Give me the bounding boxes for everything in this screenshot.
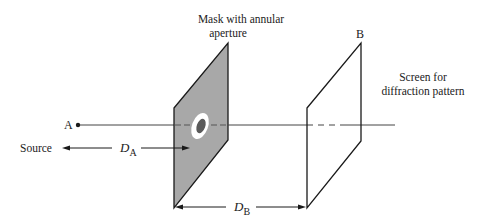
db-label: DB <box>233 199 250 217</box>
point-a-label: A <box>64 118 73 132</box>
db-label-main: D <box>233 199 244 214</box>
point-a-dot <box>76 123 80 127</box>
diffraction-diagram: A B Mask with annular aperture Screen fo… <box>0 0 485 222</box>
da-label-sub: A <box>129 147 137 158</box>
arrowhead-right-screen <box>298 205 306 210</box>
arrowhead-left-source <box>62 146 70 151</box>
source-label: Source <box>20 142 52 154</box>
da-label-main: D <box>119 140 130 155</box>
mask-label-line1: Mask with annular <box>198 13 284 25</box>
point-b-label: B <box>356 27 364 41</box>
da-label: DA <box>119 140 137 158</box>
screen-label-line1: Screen for <box>399 71 447 83</box>
db-label-sub: B <box>243 206 250 217</box>
mask-label-line2: aperture <box>209 27 247 40</box>
screen-label-line2: diffraction pattern <box>381 85 464 98</box>
